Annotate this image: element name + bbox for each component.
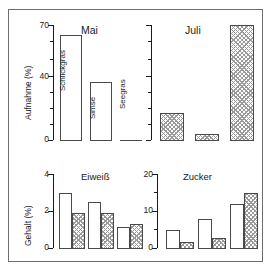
bar-zucker-simse-mai <box>198 219 212 249</box>
bar-eiweiss-schlickgras-mai <box>59 193 72 249</box>
juli-ytick-mark <box>148 41 151 42</box>
juli-ytick-mark <box>146 140 151 141</box>
mai-ytick-mark <box>50 124 53 125</box>
mai-ytick-mark <box>48 140 53 141</box>
mai-ytick-70: 70 <box>27 21 49 30</box>
mai-ytick-0: 0 <box>27 135 49 144</box>
bar-eiweiss-schlickgras-juli <box>72 213 85 249</box>
juli-ytick-mark <box>148 108 151 109</box>
bar-eiweiss-simse-mai <box>88 202 101 249</box>
mai-ytick-mark <box>50 41 53 42</box>
mai-ytick-mark <box>50 108 53 109</box>
eiweiss-ytick-4: 4 <box>27 170 49 179</box>
mai-category-seegras: Seegras <box>118 79 127 109</box>
juli-ytick-mark <box>148 124 151 125</box>
zucker-ytick-mark <box>154 192 157 193</box>
juli-ytick-mark <box>146 25 151 26</box>
panel-eiweiss: Gehalt (%) 4 2 0 Eiweiß <box>9 158 137 263</box>
juli-ytick-mark <box>146 76 151 77</box>
eiweiss-ytick-mark <box>48 174 53 175</box>
eiweiss-ytick-mark <box>48 248 53 249</box>
mai-ytick-40: 40 <box>27 72 49 81</box>
bar-juli-simse <box>195 134 219 141</box>
eiweiss-plot-area <box>54 174 134 249</box>
zucker-ytick-0: 0 <box>131 243 153 252</box>
figure-frame: Aufnahme (%) 70 40 0 Mai Schlickgras Sim… <box>8 9 263 262</box>
mai-category-simse: Simse <box>88 97 97 119</box>
zucker-ytick-mark <box>152 211 157 212</box>
bar-zucker-schlickgras-mai <box>166 230 180 249</box>
eiweiss-ytick-mark <box>48 211 53 212</box>
bar-zucker-seegras-mai <box>230 204 244 249</box>
panel-mai: Aufnahme (%) 70 40 0 Mai Schlickgras Sim… <box>9 10 137 158</box>
zucker-ytick-mark <box>152 248 157 249</box>
bar-juli-seegras <box>230 25 254 141</box>
zucker-ytick-mark <box>154 229 157 230</box>
mai-category-schlickgras: Schlickgras <box>58 50 67 91</box>
zucker-plot-area <box>158 174 253 249</box>
bar-zucker-simse-juli <box>212 238 226 249</box>
juli-plot-area <box>152 25 252 141</box>
mai-ytick-mark <box>48 25 53 26</box>
zucker-ytick-20: 20 <box>131 170 153 179</box>
mai-ytick-mark <box>50 59 53 60</box>
zucker-ytick-10: 10 <box>131 206 153 215</box>
zucker-ytick-mark <box>152 174 157 175</box>
bar-eiweiss-seegras-mai <box>117 227 130 250</box>
bar-juli-schlickgras <box>160 113 184 141</box>
panel-zucker: 20 10 0 Zucker <box>137 158 264 263</box>
bar-zucker-schlickgras-juli <box>180 242 194 250</box>
panel-juli: Juli <box>137 10 264 158</box>
juli-ytick-mark <box>148 92 151 93</box>
bar-zucker-seegras-juli <box>244 193 258 249</box>
eiweiss-ytick-2: 2 <box>27 206 49 215</box>
mai-ytick-mark <box>50 92 53 93</box>
bar-eiweiss-simse-juli <box>101 213 114 249</box>
eiweiss-ytick-0: 0 <box>27 243 49 252</box>
juli-ytick-mark <box>148 59 151 60</box>
mai-plot-area: Schlickgras Simse Seegras <box>54 25 134 141</box>
mai-ytick-mark <box>48 76 53 77</box>
